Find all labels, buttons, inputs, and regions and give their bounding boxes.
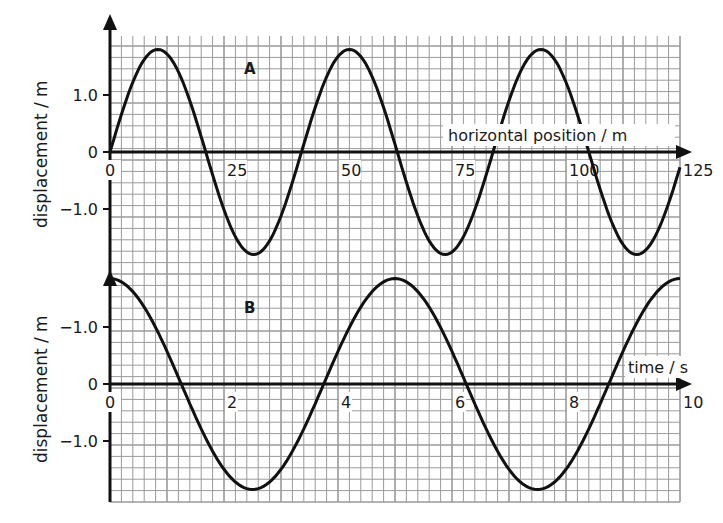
- a-y-ticks: 1.00−1.0: [59, 86, 110, 219]
- x-tick-label: 0: [105, 393, 115, 412]
- x-tick-label: 75: [455, 161, 475, 180]
- x-tick-label: 6: [455, 393, 465, 412]
- x-tick-label: 0: [105, 161, 115, 180]
- x-tick-label: 2: [227, 393, 237, 412]
- y-tick-label: 1.0: [73, 86, 98, 105]
- a-x-axis-label: horizontal position / m: [448, 126, 627, 145]
- x-tick-label: 50: [341, 161, 361, 180]
- b-x-axis-arrow-icon: [676, 377, 692, 391]
- a-y-axis-arrow-icon: [103, 14, 117, 30]
- panel-b: −1.00−1.0 0246810 B time / s displacemen…: [31, 270, 703, 502]
- graph-paper-grid: [110, 36, 680, 502]
- x-tick-label: 10: [683, 393, 703, 412]
- a-x-axis-arrow-icon: [676, 145, 692, 159]
- panel-b-label: B: [244, 299, 255, 317]
- x-tick-label: 25: [227, 161, 247, 180]
- y-tick-label: −1.0: [59, 200, 98, 219]
- y-tick-label: 0: [88, 375, 98, 394]
- b-x-axis-label: time / s: [628, 358, 688, 377]
- wave-graphs-figure: 1.00−1.0 0255075100125 A horizontal posi…: [0, 0, 723, 523]
- a-y-axis-label: displacement / m: [31, 80, 51, 228]
- y-tick-label: −1.0: [59, 318, 98, 337]
- x-tick-label: 8: [569, 393, 579, 412]
- y-tick-label: 0: [88, 143, 98, 162]
- panel-a-label: A: [244, 60, 256, 78]
- b-x-ticks: 0246810: [105, 392, 703, 412]
- y-tick-label: −1.0: [59, 432, 98, 451]
- b-y-ticks: −1.00−1.0: [59, 318, 110, 451]
- x-tick-label: 4: [341, 393, 351, 412]
- b-y-axis-label: displacement / m: [31, 315, 51, 463]
- x-tick-label: 125: [683, 161, 714, 180]
